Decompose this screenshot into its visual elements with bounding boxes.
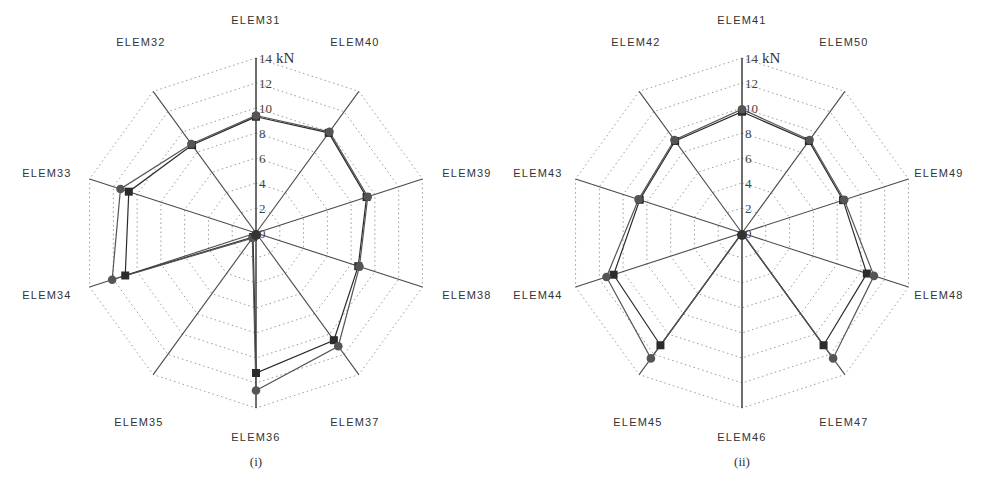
unit-label: kN [276, 50, 295, 66]
radial-tick-label: 14 [745, 51, 759, 66]
circle-marker [108, 275, 117, 284]
axis-label-elem34: ELEM34 [22, 289, 71, 301]
circle-marker [187, 140, 196, 149]
chart-caption: (ii) [734, 454, 750, 469]
radial-tick-label: 6 [745, 151, 752, 166]
circle-marker [355, 262, 364, 271]
category-labels: ELEM31ELEM40ELEM39ELEM38ELEM37ELEM36ELEM… [22, 14, 491, 443]
radial-tick-label: 10 [745, 101, 758, 116]
radar-axis [90, 179, 256, 233]
radial-tick-label: 14 [259, 51, 273, 66]
square-marker [863, 270, 871, 278]
radial-tick-label: 8 [745, 126, 752, 141]
unit-label: kN [762, 50, 781, 66]
circle-marker [325, 128, 334, 137]
radar-axis [576, 179, 742, 233]
radial-tick-label: 6 [259, 151, 266, 166]
axis-label-elem32: ELEM32 [116, 36, 165, 48]
radial-tick-label: 2 [745, 201, 752, 216]
circle-marker [116, 185, 125, 194]
radial-tick-label: 0 [259, 226, 266, 241]
series-line-square [614, 112, 867, 346]
axis-label-elem49: ELEM49 [914, 167, 963, 179]
series-line-circle [112, 116, 368, 391]
circle-marker [334, 342, 343, 351]
radial-tick-label: 12 [745, 76, 758, 91]
axis-label-elem44: ELEM44 [513, 289, 562, 301]
axis-label-elem41: ELEM41 [717, 14, 766, 26]
circle-marker [634, 195, 643, 204]
radar-series [108, 111, 372, 395]
radial-tick-labels: 02468101214kN [745, 50, 781, 241]
circle-marker [829, 354, 838, 363]
axis-label-elem47: ELEM47 [819, 416, 868, 428]
radar-chart-i: 02468101214kNELEM31ELEM40ELEM39ELEM38ELE… [22, 14, 491, 469]
circle-marker [363, 192, 372, 201]
axis-label-elem42: ELEM42 [611, 36, 660, 48]
circle-marker [870, 272, 879, 281]
radar-axis [153, 233, 256, 375]
radar-chart-ii: 02468101214kNELEM41ELEM50ELEM49ELEM48ELE… [513, 14, 963, 469]
axis-label-elem48: ELEM48 [914, 289, 963, 301]
axis-label-elem33: ELEM33 [22, 167, 71, 179]
radial-tick-label: 12 [259, 76, 272, 91]
axis-label-elem50: ELEM50 [819, 36, 868, 48]
radial-tick-labels: 02468101214kN [259, 50, 295, 241]
circle-marker [805, 136, 814, 145]
axis-label-elem35: ELEM35 [114, 416, 163, 428]
axis-label-elem43: ELEM43 [513, 167, 562, 179]
radar-axis [742, 233, 908, 287]
radial-tick-label: 2 [259, 201, 266, 216]
square-marker [610, 271, 618, 279]
radar-series [602, 105, 878, 363]
circle-marker [670, 136, 679, 145]
radial-tick-label: 10 [259, 101, 272, 116]
radar-axis [256, 179, 422, 233]
axis-label-elem45: ELEM45 [613, 416, 662, 428]
circle-marker [602, 273, 611, 282]
circle-marker [252, 386, 261, 395]
square-marker [125, 188, 133, 196]
axis-label-elem38: ELEM38 [442, 289, 491, 301]
radial-tick-label: 4 [745, 176, 752, 191]
axis-label-elem39: ELEM39 [442, 167, 491, 179]
radar-charts-canvas: 02468101214kNELEM31ELEM40ELEM39ELEM38ELE… [0, 0, 989, 488]
axis-label-elem36: ELEM36 [231, 431, 280, 443]
axis-label-elem31: ELEM31 [231, 14, 280, 26]
square-marker [820, 341, 828, 349]
axis-label-elem37: ELEM37 [330, 416, 379, 428]
chart-caption: (i) [250, 454, 262, 469]
axis-label-elem40: ELEM40 [330, 36, 379, 48]
radial-tick-label: 0 [745, 226, 752, 241]
square-marker [252, 369, 260, 377]
radar-figure: 02468101214kNELEM31ELEM40ELEM39ELEM38ELE… [0, 0, 989, 488]
radar-axis [742, 179, 908, 233]
axis-label-elem46: ELEM46 [717, 431, 766, 443]
square-marker [656, 341, 664, 349]
radial-tick-label: 4 [259, 176, 266, 191]
circle-marker [840, 195, 849, 204]
radar-axis [576, 233, 742, 287]
circle-marker [647, 354, 656, 363]
square-marker [121, 271, 129, 279]
radial-tick-label: 8 [259, 126, 266, 141]
radar-axis [256, 233, 422, 287]
